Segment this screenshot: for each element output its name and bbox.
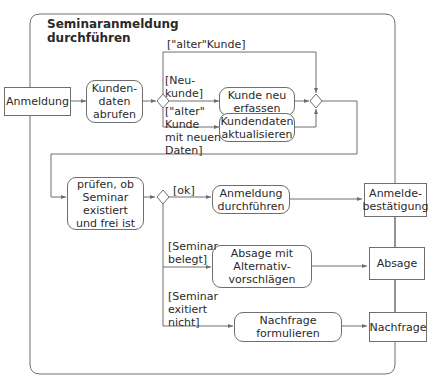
action-kunde-neu-erfassen[interactable]: Kunde neu erfassen xyxy=(219,87,295,116)
guard-alter-kunde-neue-daten: ["alter" Kunde mit neuen Daten] xyxy=(165,105,221,157)
guard-seminar-belegt: [Seminar belegt] xyxy=(168,240,218,266)
action-anmeldung-durchfuehren[interactable]: Anmeldung durchführen xyxy=(212,185,290,214)
action-kundendaten-abrufen[interactable]: Kunden- daten abrufen xyxy=(86,80,143,123)
guard-seminar-existiert-nicht: [Seminar exitiert nicht] xyxy=(168,290,218,329)
action-nachfrage-formulieren[interactable]: Nachfrage formulieren xyxy=(234,312,342,342)
guard-ok: [ok] xyxy=(173,184,195,197)
guard-alter-kunde: ["alter"Kunde] xyxy=(167,38,245,51)
object-anmeldebestaetigung[interactable]: Anmelde- bestätigung xyxy=(364,183,427,217)
activity-title: Seminaranmeldung durchführen xyxy=(47,17,179,45)
object-nachfrage[interactable]: Nachfrage xyxy=(369,312,427,342)
object-absage[interactable]: Absage xyxy=(369,247,425,280)
action-absage-alternativvorschlaege[interactable]: Absage mit Alternativ- vorschlägen xyxy=(212,245,312,288)
action-pruefen-seminar[interactable]: prüfen, ob Seminar existiert und frei is… xyxy=(67,177,144,230)
guard-neukunde: [Neu- kunde] xyxy=(165,74,203,100)
action-kundendaten-aktualisieren[interactable]: Kundendaten aktualisieren xyxy=(219,113,295,142)
object-anmeldung[interactable]: Anmeldung xyxy=(4,87,71,116)
